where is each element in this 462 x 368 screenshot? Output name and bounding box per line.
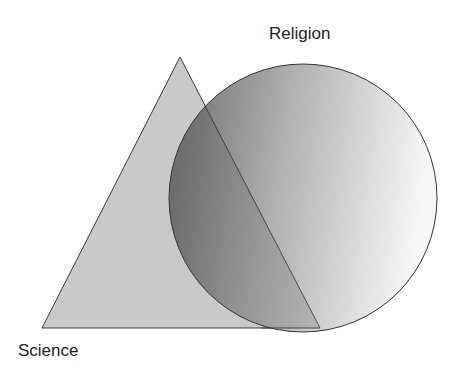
science-label: Science bbox=[18, 341, 78, 361]
diagram-canvas bbox=[0, 0, 462, 368]
venn-diagram: Religion Science bbox=[0, 0, 462, 368]
religion-label: Religion bbox=[269, 24, 330, 44]
